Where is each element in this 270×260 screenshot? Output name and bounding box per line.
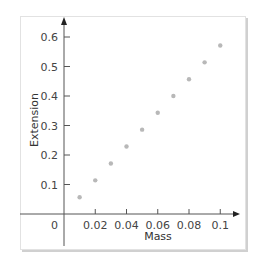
x-tick-label: 0.1 — [212, 219, 230, 232]
y-tick-label: 0.4 — [41, 90, 59, 103]
y-tick-label: 0.5 — [41, 61, 59, 74]
scatter-chart: 00.020.040.060.080.10.10.20.30.40.50.6 M… — [0, 0, 270, 260]
y-tick-label: 0.1 — [41, 179, 59, 192]
y-tick-label: 0.3 — [41, 120, 59, 133]
x-axis-title: Mass — [144, 230, 172, 243]
y-axis-arrow-icon — [61, 17, 67, 25]
y-axis-title: Extension — [28, 93, 41, 147]
data-point — [218, 43, 222, 47]
data-point — [202, 60, 206, 64]
y-tick-label: 0.6 — [41, 31, 59, 44]
data-point — [109, 161, 113, 165]
data-point — [77, 195, 81, 199]
data-point — [124, 144, 128, 148]
data-point — [171, 94, 175, 98]
data-point — [156, 111, 160, 115]
x-tick-label: 0.08 — [177, 219, 202, 232]
y-tick-label: 0.2 — [41, 149, 59, 162]
data-point — [140, 127, 144, 131]
x-tick-label: 0 — [51, 219, 58, 232]
x-tick-label: 0.04 — [114, 219, 139, 232]
data-points — [77, 43, 222, 199]
data-point — [93, 178, 97, 182]
data-point — [187, 77, 191, 81]
ticks: 00.020.040.060.080.10.10.20.30.40.50.6 — [41, 31, 230, 232]
x-axis-arrow-icon — [233, 211, 240, 217]
x-tick-label: 0.02 — [83, 219, 108, 232]
